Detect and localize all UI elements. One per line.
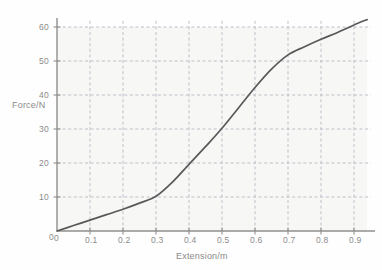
horizontal-gridlines — [57, 27, 371, 197]
y-tick-label: 50 — [39, 56, 49, 66]
y-axis-title: Force/N — [12, 100, 45, 110]
y-tick-label: 60 — [39, 22, 49, 32]
force-extension-chart: 00.10.20.30.40.50.60.70.80.9 01020304050… — [0, 0, 382, 270]
x-tick-label: 0.8 — [316, 235, 328, 245]
x-tick-label: 0.4 — [184, 235, 196, 245]
x-tick-label: 0.2 — [118, 235, 130, 245]
y-tick-label: 30 — [39, 124, 49, 134]
vertical-gridlines — [90, 20, 354, 231]
x-tick-label: 0 — [54, 233, 59, 243]
x-tick-label: 0.6 — [250, 235, 262, 245]
y-tick-label: 0 — [49, 232, 54, 242]
x-tick-label: 0.7 — [283, 235, 295, 245]
x-tick-label: 0.9 — [349, 235, 361, 245]
plot-svg — [0, 0, 382, 270]
x-tick-label: 0.3 — [151, 235, 163, 245]
x-tick-label: 0.1 — [85, 235, 97, 245]
y-tick-label: 40 — [39, 90, 49, 100]
y-tick-label: 10 — [39, 192, 49, 202]
y-tick-label: 20 — [39, 158, 49, 168]
x-tick-label: 0.5 — [217, 235, 229, 245]
x-axis-title: Extension/m — [176, 251, 228, 261]
